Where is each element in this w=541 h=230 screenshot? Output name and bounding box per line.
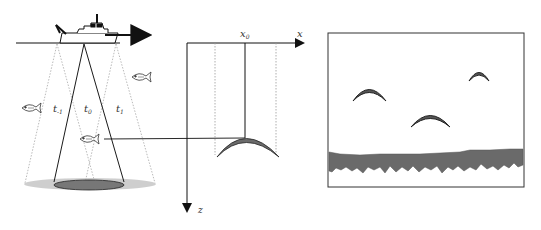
label-t-curr: t0	[84, 103, 92, 115]
ship-icon	[56, 14, 118, 43]
echogram-panel	[328, 33, 524, 187]
echo-arc	[217, 139, 279, 158]
echosounder-diagram: t-1 t0 t1 x z x0	[0, 0, 541, 230]
fish-icon	[22, 103, 41, 113]
middle-panel: x z x0	[187, 28, 303, 215]
z-axis-label: z	[197, 205, 203, 215]
label-t-next: t1	[116, 103, 124, 115]
left-panel: t-1 t0 t1	[16, 14, 245, 190]
fish-icon	[80, 134, 99, 144]
x-axis-label: x	[297, 28, 303, 39]
label-t-prev: t-1	[53, 103, 63, 115]
beam-footprint	[54, 180, 124, 190]
x0-label: x0	[240, 28, 250, 40]
fish-icon	[132, 72, 151, 82]
projection-line	[104, 138, 245, 139]
